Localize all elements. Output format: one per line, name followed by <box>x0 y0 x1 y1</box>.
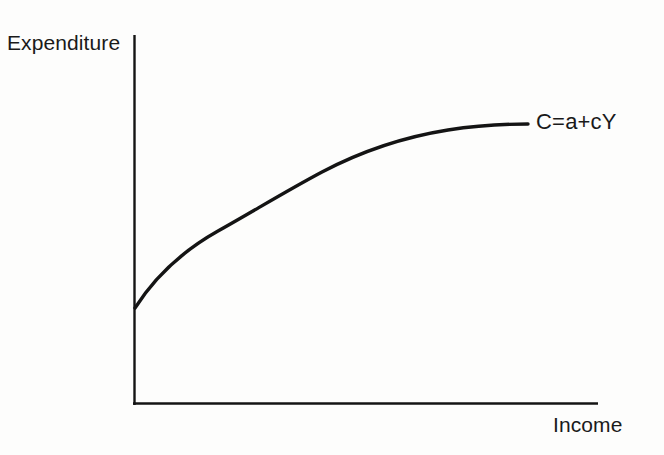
chart-plot-area <box>0 0 664 455</box>
y-axis-label: Expenditure <box>7 32 120 53</box>
consumption-function-figure: Expenditure Income C=a+cY <box>0 0 664 455</box>
consumption-function-curve <box>135 124 528 308</box>
x-axis-label: Income <box>553 414 622 435</box>
consumption-function-label: C=a+cY <box>536 111 617 133</box>
